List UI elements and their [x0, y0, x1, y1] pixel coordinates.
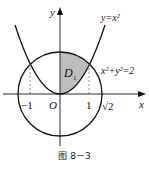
tick-label-sqrt2: √2 — [102, 100, 114, 112]
figure-caption: 图 8－3 — [0, 149, 149, 162]
y-axis-label: y — [49, 6, 55, 18]
region-label-subscript: 1 — [73, 74, 77, 82]
y-axis-arrow-icon — [57, 7, 63, 15]
tick-label-neg-one: −1 — [21, 99, 33, 111]
x-axis-label: x — [138, 98, 144, 110]
parabola-label: y=x² — [100, 12, 121, 23]
origin-label: O — [49, 99, 57, 111]
tick-label-one: 1 — [86, 99, 92, 111]
circle-label: x²+y²=2 — [100, 65, 134, 76]
x-axis-arrow-icon — [138, 91, 146, 97]
region-label: D — [63, 66, 73, 80]
figure-canvas: y x O −1 1 √2 y=x² x²+y²=2 D 1 — [0, 0, 149, 171]
